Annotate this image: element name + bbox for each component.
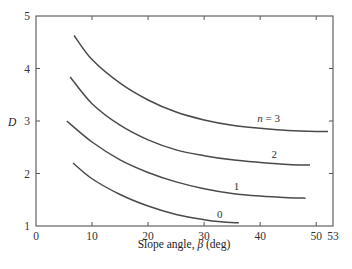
slope-chart: 010203040505312345 n = 3210 D Slope angl… — [0, 0, 352, 269]
curve-labels: n = 3210 — [217, 112, 280, 220]
y-tick-label: 2 — [24, 168, 30, 180]
curve-n-0 — [73, 163, 239, 223]
y-tick-label: 4 — [24, 63, 30, 75]
y-tick-label: 1 — [24, 220, 30, 232]
x-tick-label: 53 — [327, 230, 339, 242]
plot-frame — [36, 16, 333, 226]
x-tick-label: 50 — [310, 230, 322, 242]
x-tick-label: 40 — [254, 230, 266, 242]
curve-n-1 — [67, 121, 306, 198]
y-axis-label: D — [7, 116, 17, 128]
x-tick-label: 0 — [33, 230, 39, 242]
curve-n-3 — [74, 35, 328, 131]
axis-ticks: 010203040505312345 — [24, 10, 339, 242]
y-tick-label: 3 — [24, 115, 30, 127]
plot-border — [36, 16, 333, 226]
x-tick-label: 10 — [86, 230, 98, 242]
curve-label: 1 — [234, 180, 240, 192]
x-axis-label: Slope angle, β (deg) — [138, 238, 231, 251]
curves — [67, 35, 328, 222]
y-tick-label: 5 — [24, 10, 30, 22]
curve-label: 2 — [271, 148, 277, 160]
curve-label: n = 3 — [257, 112, 280, 124]
curve-label: 0 — [217, 208, 223, 220]
